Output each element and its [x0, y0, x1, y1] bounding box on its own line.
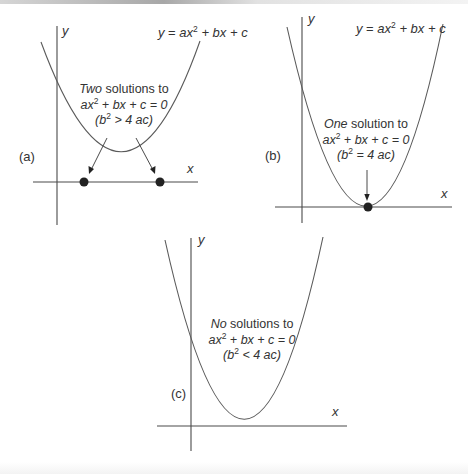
panel-b-root-marker: [364, 203, 373, 212]
eq-sign: =: [363, 21, 378, 36]
panel-b-parabola: [287, 24, 443, 206]
annotation-line-2: ax2 + bx + c = 0: [192, 333, 312, 349]
panel-a-x-axis-label: x: [187, 162, 194, 175]
quadratic-roots-diagram: [0, 0, 468, 474]
annotation-emphasis: One: [324, 117, 348, 131]
panel-a-arrow-right: [136, 138, 156, 174]
annotation-b: (b: [337, 148, 348, 162]
eq-rest: + bx + c: [396, 21, 446, 36]
panel-a-arrow-left: [89, 138, 108, 174]
annotation-line-2-text: + bx + c = 0: [98, 98, 167, 112]
panel-a-y-axis-label: y: [62, 24, 69, 37]
panel-b-x-axis-label: x: [441, 187, 448, 200]
annotation-line-2-text: + bx + c = 0: [226, 333, 295, 347]
annotation-emphasis: No: [211, 317, 227, 331]
annotation-ax: ax: [80, 98, 93, 112]
annotation-line-3: (b2 < 4 ac): [192, 348, 312, 364]
panel-b-annotation: One solution to ax2 + bx + c = 0 (b2 = 4…: [306, 117, 426, 164]
annotation-line-1: No solutions to: [192, 317, 312, 333]
scan-edge-bottom: [0, 462, 468, 474]
annotation-line-2-text: + bx + c = 0: [340, 133, 409, 147]
panel-a-root-left-marker: [80, 178, 89, 187]
annotation-line-1: One solution to: [306, 117, 426, 133]
panel-c-annotation: No solutions to ax2 + bx + c = 0 (b2 < 4…: [192, 317, 312, 364]
annotation-ax: ax: [322, 133, 335, 147]
annotation-line-3: (b2 > 4 ac): [64, 113, 184, 129]
annotation-b: (b: [223, 348, 234, 362]
eq-ax: ax: [179, 25, 193, 40]
panel-a-root-right-marker: [156, 178, 165, 187]
annotation-line-1-text: solutions to: [102, 82, 169, 96]
annotation-line-3: (b2 = 4 ac): [306, 148, 426, 164]
panel-a-label: (a): [19, 150, 35, 163]
panel-b-arrow-down: [364, 170, 369, 201]
panel-a-annotation: Two solutions to ax2 + bx + c = 0 (b2 > …: [64, 82, 184, 129]
panel-b-equation-label: y = ax2 + bx + c: [356, 22, 446, 35]
annotation-emphasis: Two: [79, 82, 102, 96]
panel-c-label: (c): [171, 387, 186, 400]
eq-rest: + bx + c: [198, 25, 248, 40]
annotation-line-3-text: > 4 ac): [111, 113, 153, 127]
annotation-line-1-text: solution to: [348, 117, 408, 131]
annotation-line-1-text: solutions to: [227, 317, 294, 331]
panel-a-equation-label: y = ax2 + bx + c: [158, 26, 248, 39]
annotation-line-3-text: = 4 ac): [353, 148, 395, 162]
annotation-line-1: Two solutions to: [64, 82, 184, 98]
panel-c-x-axis-label: x: [332, 405, 339, 418]
annotation-line-2: ax2 + bx + c = 0: [64, 98, 184, 114]
annotation-ax: ax: [208, 333, 221, 347]
panel-c-y-axis-label: y: [198, 233, 205, 246]
panel-b-y-axis-label: y: [308, 12, 315, 25]
eq-ax: ax: [377, 21, 391, 36]
panel-b-label: (b): [265, 149, 281, 162]
annotation-b: (b: [95, 113, 106, 127]
annotation-line-2: ax2 + bx + c = 0: [306, 133, 426, 149]
eq-sign: =: [165, 25, 180, 40]
annotation-line-3-text: < 4 ac): [239, 348, 281, 362]
